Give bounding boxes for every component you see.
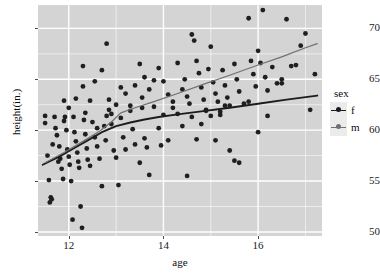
legend-key-swatch [330,119,347,136]
x-axis-label: age [38,256,322,268]
y-tick-mark [35,181,38,182]
legend-point-icon [336,124,341,129]
x-tick-mark [163,236,164,239]
plot-svg [38,5,322,236]
y-tick-mark [35,130,38,131]
legend-item-m[interactable]: m [330,119,380,136]
x-tick-label: 16 [238,240,278,251]
legend-items: fm [330,102,380,136]
legend-item-f[interactable]: f [330,102,380,119]
x-tick-mark [69,236,70,239]
x-tick-label: 12 [49,240,89,251]
y-tick-label: 65 [346,73,380,84]
y-axis-label: height(in.) [10,52,22,172]
legend-item-label: m [351,122,360,133]
panel-background [38,5,322,236]
legend: sex fm [330,88,380,136]
legend-key-swatch [330,102,347,119]
chart-screenshot: 5055606570 121416 age height(in.) sex fm [0,0,380,280]
y-tick-label: 55 [346,175,380,186]
y-tick-mark [35,232,38,233]
x-tick-mark [258,236,259,239]
legend-point-icon [336,107,341,112]
plot-panel [38,5,322,236]
y-tick-mark [35,28,38,29]
x-tick-label: 14 [143,240,183,251]
y-tick-mark [35,79,38,80]
y-tick-label: 70 [346,22,380,33]
y-tick-label: 50 [346,226,380,237]
legend-item-label: f [351,105,355,116]
legend-title: sex [334,88,380,99]
